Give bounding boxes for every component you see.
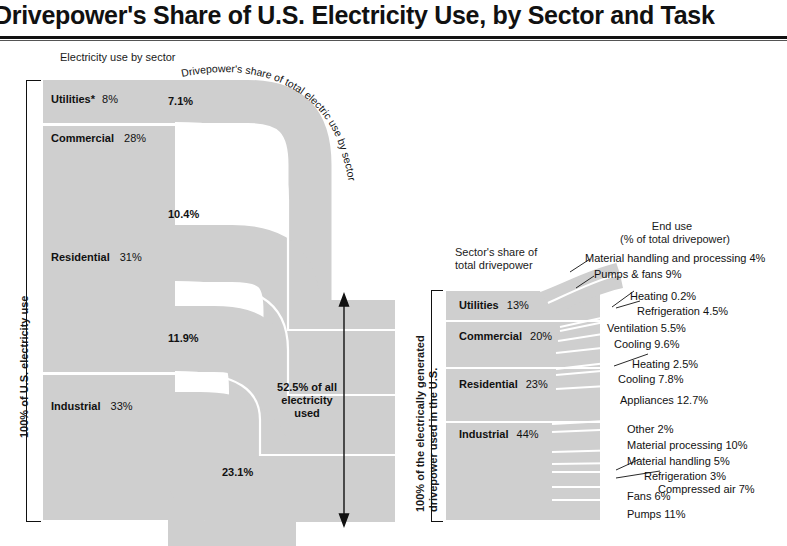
right-axis-label-line1: 100% of the electrically generated xyxy=(414,335,426,512)
right-sector-bar-commercial xyxy=(446,322,600,367)
end-use-item-heating-residential: Heating 2.5% xyxy=(632,358,698,370)
right-sector-pct-commercial: 20% xyxy=(530,330,552,342)
right-sector-pct-residential: 23% xyxy=(526,378,548,390)
end-use-item-cooling-residential: Cooling 7.8% xyxy=(618,373,683,385)
end-use-item-appliances: Appliances 12.7% xyxy=(620,394,708,406)
right-panel-heading-line1: Sector's share of xyxy=(455,246,537,259)
end-use-item-pumps: Pumps 11% xyxy=(627,508,686,520)
end-use-item-material-processing: Material processing 10% xyxy=(627,439,747,451)
flow-pct-residential: 11.9% xyxy=(168,332,199,344)
end-use-item-refrigeration-industrial: Refrigeration 3% xyxy=(644,470,726,482)
total-share-line2: electricity xyxy=(276,394,338,407)
right-sector-pct-utilities: 13% xyxy=(507,299,529,311)
total-share-line1: 52.5% of all xyxy=(276,381,338,394)
end-use-item-other: Other 2% xyxy=(627,423,673,435)
right-sector-pct-industrial: 44% xyxy=(517,428,539,440)
right-sector-label-utilities: Utilities 13% xyxy=(459,299,529,311)
end-use-item-material-handling-processing: Material handling and processing 4% xyxy=(585,252,765,264)
end-use-heading-line2: (% of total drivepower) xyxy=(600,233,750,246)
right-axis-bracket xyxy=(431,290,443,522)
flow-pct-industrial: 23.1% xyxy=(222,466,253,478)
right-sector-name-residential: Residential xyxy=(459,378,518,390)
end-use-item-pumps-fans: Pumps & fans 9% xyxy=(594,268,681,280)
end-use-item-ventilation: Ventilation 5.5% xyxy=(607,322,686,334)
end-use-heading-line1: End use xyxy=(612,220,732,233)
right-sector-name-utilities: Utilities xyxy=(459,299,499,311)
right-sector-label-commercial: Commercial 20% xyxy=(459,330,552,342)
total-share-line3: used xyxy=(276,407,338,420)
right-sector-label-industrial: Industrial 44% xyxy=(459,428,539,440)
end-use-item-fans: Fans 6% xyxy=(627,490,670,502)
right-sector-bar-residential xyxy=(446,369,600,421)
curved-flow-label: Drivepower's share of total electric use… xyxy=(180,62,359,182)
flow-pct-utilities: 7.1% xyxy=(168,95,193,107)
right-sector-label-residential: Residential 23% xyxy=(459,378,548,390)
end-use-item-cooling-commercial: Cooling 9.6% xyxy=(614,338,679,350)
right-sector-name-commercial: Commercial xyxy=(459,330,522,342)
flow-pct-commercial: 10.4% xyxy=(168,208,199,220)
end-use-item-material-handling: Material handling 5% xyxy=(627,455,730,467)
curved-flow-label-text: Drivepower's share of total electric use… xyxy=(180,62,359,182)
end-use-item-refrigeration-commercial: Refrigeration 4.5% xyxy=(637,305,728,317)
right-sector-name-industrial: Industrial xyxy=(459,428,509,440)
end-use-item-compressed-air: Compressed air 7% xyxy=(658,483,755,495)
total-share-label: 52.5% of all electricity used xyxy=(276,381,338,420)
right-panel-heading-line2: total drivepower xyxy=(455,259,533,272)
end-use-item-heating-commercial: Heating 0.2% xyxy=(630,290,696,302)
